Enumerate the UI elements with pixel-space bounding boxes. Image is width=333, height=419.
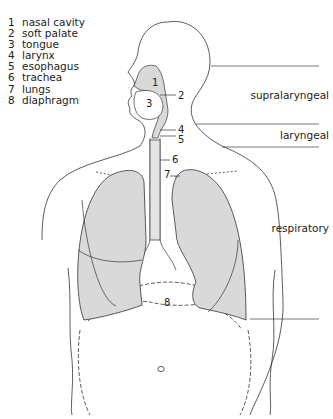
callout-1: 1 [152,77,158,88]
callout-8: 8 [164,297,170,308]
callout-7: 7 [164,169,170,180]
callout-3: 3 [146,98,152,109]
legend: 1nasal cavity 2soft palate 3tongue 4lary… [8,17,85,106]
region-label-respiratory: respiratory [272,222,329,234]
region-label-laryngeal: laryngeal [280,129,329,141]
callout-6: 6 [172,154,178,165]
region-label-supralaryngeal: supralaryngeal [250,89,329,101]
callout-5: 5 [178,134,184,145]
legend-item: 8diaphragm [8,95,85,106]
callout-2: 2 [178,90,184,101]
